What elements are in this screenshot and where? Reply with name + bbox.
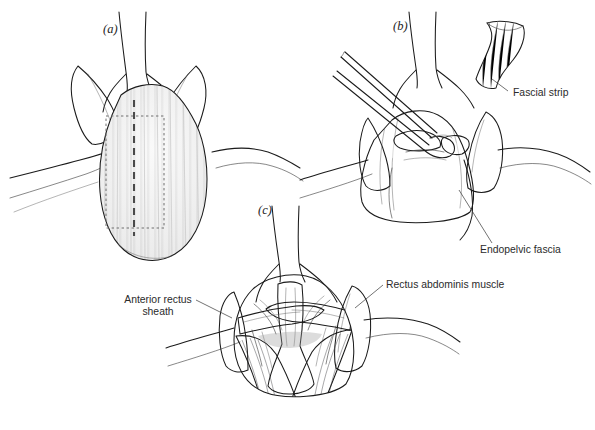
- panel-b-letter: (b): [393, 19, 408, 33]
- figure-background: [0, 0, 595, 430]
- label-endopelvic-fascia: Endopelvic fascia: [480, 244, 561, 255]
- label-fascial-strip: Fascial strip: [513, 87, 569, 98]
- label-anterior-rectus-sheath-line1: Anterior rectus: [124, 294, 192, 305]
- panel-c-letter: (c): [258, 203, 272, 217]
- label-anterior-rectus-sheath-line2: sheath: [142, 306, 173, 317]
- label-rectus-abdominis-muscle: Rectus abdominis muscle: [386, 279, 505, 290]
- panel-a-letter: (a): [103, 22, 118, 36]
- figure-root: (a): [0, 0, 595, 430]
- surgical-illustration-canvas: (a): [0, 0, 595, 430]
